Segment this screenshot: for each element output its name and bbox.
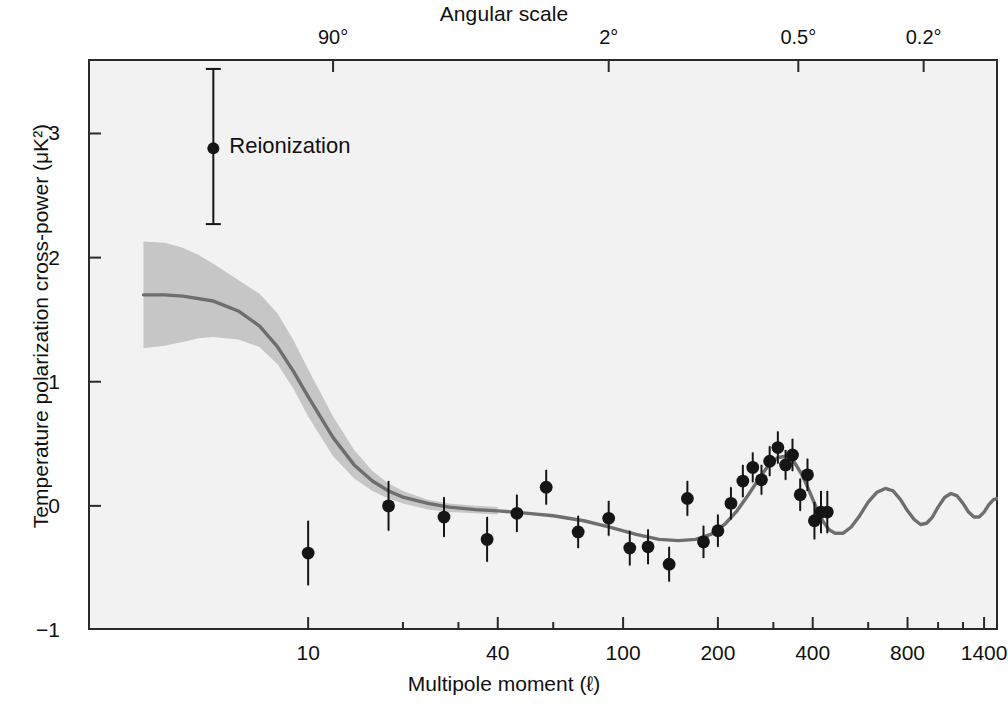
x-axis-tick-100: 100	[606, 641, 641, 665]
data-point-marker	[681, 492, 694, 505]
data-point-marker	[642, 540, 655, 553]
uncertainty-band	[143, 241, 497, 514]
data-point-marker	[755, 473, 768, 486]
data-point-marker	[438, 511, 451, 524]
x-axis-title: Multipole moment (ℓ)	[0, 672, 1008, 696]
data-point-marker	[821, 506, 834, 519]
x-axis-tick-1400: 1400	[961, 641, 1008, 665]
figure-cmb-te-cross-power: Angular scale 90°2°0.5°0.2° 104010020040…	[0, 0, 1008, 717]
x-axis-tick-10: 10	[296, 641, 319, 665]
x-axis-tick-40: 40	[486, 641, 509, 665]
data-point-marker	[572, 526, 585, 539]
y-axis-title: Temperature polarization cross-power (μK…	[29, 0, 53, 656]
data-point-marker	[481, 533, 494, 546]
top-axis-tick-2: 2°	[599, 26, 618, 49]
data-point-marker	[712, 524, 725, 537]
top-axis-tick-0.5: 0.5°	[780, 26, 816, 49]
data-point-marker	[786, 449, 799, 462]
data-point-marker	[801, 468, 814, 481]
data-point-marker	[746, 461, 759, 474]
data-point-marker	[663, 558, 676, 571]
x-axis-tick-800: 800	[890, 641, 925, 665]
legend-label-reionization: Reionization	[229, 133, 350, 159]
data-point-marker	[794, 488, 807, 501]
data-point-marker	[510, 507, 523, 520]
data-point-marker	[302, 547, 315, 560]
data-point-marker	[725, 497, 738, 510]
data-point-marker	[763, 455, 776, 468]
data-point-marker	[540, 481, 553, 494]
data-point-marker	[736, 475, 749, 488]
x-axis-tick-400: 400	[795, 641, 830, 665]
top-axis-tick-0.2: 0.2°	[906, 26, 942, 49]
data-point-marker	[771, 441, 784, 454]
plot-graphics	[88, 59, 998, 630]
reionization-point-marker	[207, 142, 219, 154]
x-axis-tick-200: 200	[700, 641, 735, 665]
data-point-marker	[623, 542, 636, 555]
data-point-marker	[697, 535, 710, 548]
data-point-marker	[382, 499, 395, 512]
data-point-marker	[602, 512, 615, 525]
top-axis-tick-90: 90°	[318, 26, 348, 49]
top-axis-title: Angular scale	[0, 2, 1008, 26]
